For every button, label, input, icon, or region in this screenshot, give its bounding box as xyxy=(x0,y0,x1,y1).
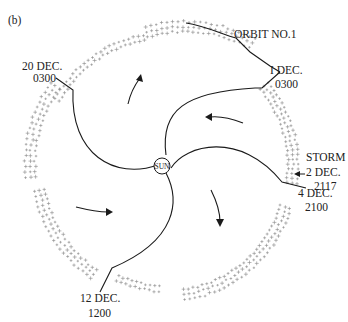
data-point-cross xyxy=(33,170,37,174)
data-point-cross xyxy=(287,212,291,216)
data-point-cross xyxy=(216,284,218,286)
data-point-cross xyxy=(283,211,286,214)
data-point-cross xyxy=(99,50,103,54)
data-point-cross xyxy=(161,32,164,35)
data-point-cross xyxy=(44,225,47,228)
data-point-cross xyxy=(287,130,290,133)
data-point-cross xyxy=(286,162,290,166)
data-point-cross xyxy=(171,30,174,33)
data-point-cross xyxy=(56,93,59,96)
data-point-cross xyxy=(29,175,33,179)
data-point-cross xyxy=(135,280,138,283)
data-point-cross xyxy=(128,284,132,288)
data-point-cross xyxy=(288,135,291,138)
data-point-cross xyxy=(119,281,123,285)
data-point-cross xyxy=(288,207,291,210)
data-point-cross xyxy=(206,286,210,290)
data-point-cross xyxy=(266,89,269,92)
data-point-cross xyxy=(34,150,37,152)
data-point-cross xyxy=(275,93,278,96)
data-point-cross xyxy=(275,217,278,220)
data-point-cross xyxy=(230,277,233,280)
data-point-cross xyxy=(98,58,101,61)
data-point-cross xyxy=(25,154,28,157)
data-point-cross xyxy=(155,29,159,33)
data-point-cross xyxy=(35,123,38,126)
data-point-cross xyxy=(29,171,32,174)
data-point-cross xyxy=(43,208,47,212)
data-point-cross xyxy=(58,229,62,233)
data-point-cross xyxy=(57,237,60,240)
data-point-cross xyxy=(82,62,86,66)
data-point-cross xyxy=(201,283,204,286)
data-point-cross xyxy=(149,284,152,287)
data-point-cross xyxy=(270,85,273,88)
data-point-cross xyxy=(286,149,289,152)
storm-date: 2 DEC. xyxy=(306,166,341,178)
data-point-cross xyxy=(202,288,205,290)
data-point-cross xyxy=(143,287,146,290)
data-point-cross xyxy=(250,41,254,45)
data-point-cross xyxy=(296,152,300,156)
data-point-cross xyxy=(222,286,226,290)
boundary-label-4dec-time: 2100 xyxy=(305,201,328,213)
data-point-cross xyxy=(291,148,295,152)
data-point-cross xyxy=(70,252,73,255)
data-point-cross xyxy=(274,239,278,243)
data-point-cross xyxy=(193,20,197,24)
data-point-cross xyxy=(276,228,280,232)
data-point-cross xyxy=(65,81,68,84)
data-point-cross xyxy=(279,107,282,110)
arrowhead-icon xyxy=(106,208,113,216)
data-point-cross xyxy=(73,249,76,252)
data-point-cross xyxy=(286,172,289,175)
data-point-cross xyxy=(208,291,212,295)
data-point-cross xyxy=(285,154,289,157)
data-point-cross xyxy=(160,27,164,31)
data-point-cross xyxy=(230,269,233,272)
data-point-cross xyxy=(29,143,33,147)
data-point-cross xyxy=(87,263,90,266)
data-point-cross xyxy=(64,244,67,247)
data-point-cross xyxy=(218,288,222,292)
data-point-cross xyxy=(182,287,186,291)
data-point-cross xyxy=(44,91,48,95)
data-point-cross xyxy=(115,47,119,51)
boundary-label-12dec-time: 1200 xyxy=(88,307,111,319)
data-point-cross xyxy=(47,105,50,108)
data-point-cross xyxy=(273,110,277,114)
data-point-cross xyxy=(279,230,282,233)
data-point-cross xyxy=(69,245,73,249)
data-point-cross xyxy=(47,202,50,205)
data-point-cross xyxy=(52,239,55,242)
data-point-cross xyxy=(290,172,293,175)
data-point-cross xyxy=(197,32,199,35)
data-point-cross xyxy=(115,279,119,283)
data-point-cross xyxy=(144,25,148,29)
data-point-cross xyxy=(150,29,153,32)
data-point-cross xyxy=(54,97,57,100)
data-point-cross xyxy=(281,127,283,129)
data-point-cross xyxy=(26,131,30,135)
data-point-cross xyxy=(282,116,285,119)
data-point-cross xyxy=(213,33,216,36)
data-point-cross xyxy=(93,59,97,63)
data-point-cross xyxy=(38,129,41,132)
data-point-cross xyxy=(35,200,38,203)
data-point-cross xyxy=(58,247,62,251)
data-point-cross xyxy=(39,113,42,116)
data-point-cross xyxy=(51,227,54,231)
data-point-cross xyxy=(256,255,259,258)
data-point-cross xyxy=(44,192,48,196)
data-point-cross xyxy=(281,131,285,135)
storm-pointer xyxy=(294,171,305,177)
data-point-cross xyxy=(233,40,236,43)
data-point-cross xyxy=(117,274,120,277)
data-point-cross xyxy=(28,154,32,158)
data-point-cross xyxy=(155,23,158,26)
data-point-cross xyxy=(42,114,45,117)
data-point-cross xyxy=(48,218,51,221)
data-point-cross xyxy=(276,114,279,117)
data-point-cross xyxy=(82,269,85,272)
data-point-cross xyxy=(210,281,213,284)
